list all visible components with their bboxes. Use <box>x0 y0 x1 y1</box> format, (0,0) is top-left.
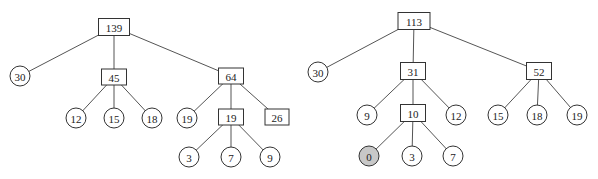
node-label: 113 <box>406 16 423 28</box>
leaf-node: 15 <box>104 108 124 128</box>
node-label: 12 <box>451 110 462 122</box>
node-label: 19 <box>182 113 194 125</box>
node-label: 10 <box>408 108 420 120</box>
node-label: 15 <box>109 113 121 125</box>
leaf-node: 12 <box>446 105 466 125</box>
internal-node: 10 <box>401 105 426 122</box>
internal-node: 26 <box>265 109 289 125</box>
node-label: 31 <box>408 66 419 78</box>
leaf-node: 15 <box>488 105 508 125</box>
internal-node: 45 <box>102 69 127 85</box>
edges-layer <box>20 21 577 157</box>
node-label: 45 <box>109 72 121 84</box>
node-label: 0 <box>366 151 372 163</box>
tree-edge <box>414 21 539 71</box>
internal-node: 113 <box>398 13 430 30</box>
node-label: 3 <box>409 151 415 163</box>
leaf-node: 7 <box>221 147 241 167</box>
node-label: 15 <box>493 110 505 122</box>
node-label: 30 <box>15 71 27 83</box>
node-label: 64 <box>226 71 238 83</box>
node-label: 18 <box>147 113 159 125</box>
node-label: 9 <box>364 110 370 122</box>
node-label: 19 <box>572 110 584 122</box>
node-label: 19 <box>226 112 238 124</box>
leaf-node: 7 <box>443 146 463 166</box>
internal-node: 31 <box>401 63 426 80</box>
leaf-node: 9 <box>357 105 377 125</box>
tree-edge <box>114 27 231 76</box>
leaf-node: 0 <box>359 146 379 166</box>
tree-diagram: 1393045641215181919263791133031529101215… <box>0 0 598 179</box>
node-label: 7 <box>228 152 234 164</box>
node-label: 26 <box>272 112 284 124</box>
leaf-node: 19 <box>177 108 197 128</box>
leaf-node: 12 <box>66 108 86 128</box>
leaf-node: 30 <box>10 66 30 86</box>
internal-node: 19 <box>219 109 244 125</box>
leaf-node: 18 <box>142 108 162 128</box>
internal-node: 64 <box>219 68 244 84</box>
leaf-node: 9 <box>260 147 280 167</box>
node-label: 12 <box>71 113 82 125</box>
leaf-node: 3 <box>402 146 422 166</box>
leaf-node: 3 <box>179 147 199 167</box>
node-label: 3 <box>186 152 192 164</box>
node-label: 139 <box>106 22 123 34</box>
leaf-node: 30 <box>308 62 328 82</box>
internal-node: 52 <box>527 63 552 80</box>
node-label: 18 <box>532 110 544 122</box>
leaf-node: 18 <box>527 105 547 125</box>
node-label: 30 <box>313 67 325 79</box>
node-label: 9 <box>267 152 273 164</box>
node-label: 52 <box>534 66 545 78</box>
internal-node: 139 <box>99 19 130 36</box>
leaf-node: 19 <box>567 105 587 125</box>
node-label: 7 <box>450 151 456 163</box>
